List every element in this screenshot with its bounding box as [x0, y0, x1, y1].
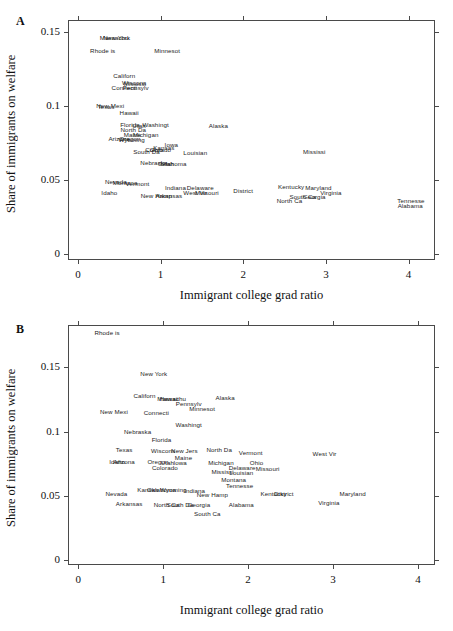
- x-tick-top: [163, 321, 164, 325]
- data-point-label: Wyoming: [160, 486, 186, 493]
- data-point-label: Rhode is: [90, 47, 115, 54]
- data-point-label: Vermont: [239, 449, 263, 456]
- data-point-label: Arkansas: [156, 191, 183, 198]
- data-point-label: Georgia: [303, 193, 326, 200]
- x-tick-top: [161, 16, 162, 20]
- x-tick-label: 2: [233, 573, 263, 585]
- x-tick: [326, 260, 327, 264]
- y-tick-right: [435, 180, 439, 181]
- data-point-label: Oklahoma: [158, 159, 187, 166]
- data-point-label: Texas: [116, 446, 133, 453]
- y-tick: [64, 32, 68, 33]
- data-point-label: Rhode is: [94, 329, 119, 336]
- data-point-label: Florida: [152, 436, 172, 443]
- data-point-label: Arkansas: [116, 500, 143, 507]
- data-point-label: Maryland: [339, 490, 365, 497]
- x-tick-top: [418, 321, 419, 325]
- x-tick-label: 4: [394, 268, 424, 280]
- data-point-label: Alabama: [229, 501, 254, 508]
- y-tick-label: 0: [24, 247, 60, 259]
- x-tick-label: 3: [311, 268, 341, 280]
- y-tick-label: 0.1: [24, 99, 60, 111]
- panel-a-x-axis-label: Immigrant college grad ratio: [68, 288, 435, 303]
- x-tick-label: 4: [403, 573, 433, 585]
- x-tick-top: [78, 16, 79, 20]
- data-point-label: Tennesse: [226, 482, 253, 489]
- y-tick-right: [435, 496, 439, 497]
- data-point-label: Alaska: [209, 121, 228, 128]
- data-point-label: New York: [140, 370, 167, 377]
- data-point-label: New Mexi: [100, 407, 128, 414]
- x-tick-top: [248, 321, 249, 325]
- x-tick: [163, 565, 164, 569]
- y-tick-label: 0.05: [24, 173, 60, 185]
- y-tick-label: 0.15: [24, 25, 60, 37]
- y-tick: [64, 106, 68, 107]
- x-tick: [78, 260, 79, 264]
- data-point-label: Minnesot: [154, 47, 180, 54]
- x-tick-label: 0: [63, 268, 93, 280]
- data-point-label: Minnesot: [189, 405, 215, 412]
- data-point-label: District: [274, 490, 294, 497]
- data-point-label: Washingt: [175, 421, 201, 428]
- data-point-label: New York: [103, 34, 130, 41]
- y-tick: [64, 560, 68, 561]
- data-point-label: Californ: [113, 71, 135, 78]
- x-tick: [161, 260, 162, 264]
- data-point-label: Idaho: [101, 188, 117, 195]
- data-point-label: Vermont: [126, 180, 150, 187]
- data-point-label: District: [233, 187, 253, 194]
- data-point-label: Alaska: [216, 393, 235, 400]
- y-tick-right: [435, 254, 439, 255]
- data-point-label: South Ca: [194, 509, 221, 516]
- x-tick: [248, 565, 249, 569]
- data-point-label: Colorado: [152, 464, 178, 471]
- panel-a-y-axis-label: Share of immigrants on welfare: [4, 26, 20, 241]
- data-point-label: Arizona: [113, 458, 135, 465]
- y-tick-right: [435, 560, 439, 561]
- x-tick-top: [326, 16, 327, 20]
- y-tick-right: [435, 32, 439, 33]
- panel-b-x-axis-label: Immigrant college grad ratio: [68, 603, 435, 618]
- y-tick-label: 0: [24, 553, 60, 565]
- data-point-label: Missouri: [256, 464, 280, 471]
- data-point-label: Pennsylv: [123, 83, 149, 90]
- x-tick-top: [78, 321, 79, 325]
- data-point-label: Mississi: [303, 148, 325, 155]
- x-tick-top: [409, 16, 410, 20]
- data-point-label: Nebraska: [124, 428, 151, 435]
- x-tick-top: [333, 321, 334, 325]
- data-point-label: Wyoming: [118, 135, 144, 142]
- panel-b: B Share of immigrants on welfare Immigra…: [0, 310, 453, 631]
- x-tick: [333, 565, 334, 569]
- data-point-label: West Vir: [313, 450, 337, 457]
- y-tick: [64, 496, 68, 497]
- y-tick-label: 0.15: [24, 360, 60, 372]
- data-point-label: North Ca: [277, 196, 303, 203]
- data-point-label: Virginia: [318, 498, 339, 505]
- data-point-label: South Da: [133, 148, 160, 155]
- data-point-label: North Da: [206, 446, 232, 453]
- data-point-label: Texas: [98, 102, 115, 109]
- data-point-label: Californ: [133, 391, 155, 398]
- y-tick-right: [435, 432, 439, 433]
- y-tick-right: [435, 367, 439, 368]
- y-tick: [64, 432, 68, 433]
- x-tick: [78, 565, 79, 569]
- y-tick-right: [435, 106, 439, 107]
- x-tick-label: 1: [146, 268, 176, 280]
- data-point-label: Missouri: [195, 188, 219, 195]
- y-tick: [64, 367, 68, 368]
- x-tick-label: 3: [318, 573, 348, 585]
- data-point-label: Connecti: [144, 409, 169, 416]
- data-point-label: Louisian: [183, 148, 207, 155]
- panel-b-letter: B: [16, 322, 24, 337]
- data-point-label: Georgia: [187, 501, 210, 508]
- panel-a: A Share of immigrants on welfare Immigra…: [0, 0, 453, 310]
- y-tick-label: 0.05: [24, 489, 60, 501]
- x-tick-label: 2: [228, 268, 258, 280]
- data-point-label: Alabama: [398, 202, 423, 209]
- data-point-label: New Hamp: [197, 491, 228, 498]
- y-tick-label: 0.1: [24, 425, 60, 437]
- panel-b-y-axis-label: Share of immigrants on welfare: [4, 340, 20, 555]
